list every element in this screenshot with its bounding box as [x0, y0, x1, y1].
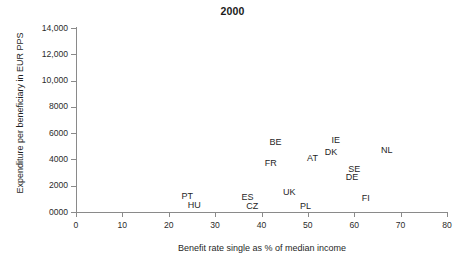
- data-point-label: AT: [307, 154, 318, 163]
- x-tick-label: 20: [154, 220, 184, 230]
- x-tick-mark: [401, 212, 402, 217]
- data-point-label: IE: [331, 136, 340, 145]
- x-tick-label: 40: [247, 220, 277, 230]
- x-tick-mark: [262, 212, 263, 217]
- x-tick-label: 50: [293, 220, 323, 230]
- x-axis-title: Benefit rate single as % of median incom…: [76, 243, 448, 253]
- data-point-label: PT: [182, 191, 194, 200]
- x-tick-mark: [354, 212, 355, 217]
- data-point-label: DE: [346, 173, 359, 182]
- data-point-label: UK: [283, 187, 296, 196]
- x-tick-mark: [122, 212, 123, 217]
- data-point-label: BE: [269, 137, 281, 146]
- x-tick-label: 70: [386, 220, 416, 230]
- x-tick-label: 60: [339, 220, 369, 230]
- data-point-label: HU: [188, 201, 201, 210]
- x-tick-mark: [308, 212, 309, 217]
- chart-title: 2000: [0, 5, 465, 17]
- x-tick-label: 10: [107, 220, 137, 230]
- x-tick-label: 0: [61, 220, 91, 230]
- plot-area: PTHUESCZFRBEUKPLATDKIEDESEFINL: [76, 28, 447, 212]
- x-tick-label: 30: [200, 220, 230, 230]
- data-point-label: NL: [381, 146, 393, 155]
- y-axis-title: Expenditure per beneficiary in EUR PPS: [15, 13, 25, 213]
- data-point-label: FR: [265, 159, 277, 168]
- scatter-chart: 2000 0000200040006000800010,00012,00014,…: [0, 0, 465, 270]
- x-tick-mark: [76, 212, 77, 217]
- x-tick-mark: [447, 212, 448, 217]
- x-tick-mark: [169, 212, 170, 217]
- data-point-label: SE: [348, 165, 360, 174]
- data-point-label: PL: [300, 202, 311, 211]
- x-tick-label: 80: [432, 220, 462, 230]
- x-tick-mark: [215, 212, 216, 217]
- data-point-label: CZ: [246, 202, 258, 211]
- data-point-label: DK: [325, 147, 338, 156]
- data-point-label: FI: [362, 193, 370, 202]
